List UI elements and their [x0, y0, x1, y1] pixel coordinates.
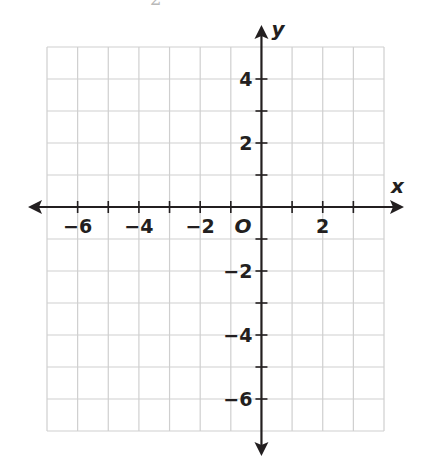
x-axis-label: x [390, 174, 405, 198]
coordinate-plane: −6−4−2242−2−4−6 x y O [0, 0, 425, 465]
x-tick-label: −4 [124, 215, 153, 237]
axes [28, 25, 404, 456]
y-tick-label: 2 [239, 132, 252, 154]
x-tick-label: 2 [316, 215, 329, 237]
y-tick-label: −6 [223, 388, 252, 410]
grid-lines [47, 47, 384, 431]
y-tick-label: −2 [223, 260, 252, 282]
y-tick-label: −4 [223, 324, 252, 346]
x-tick-label: −2 [186, 215, 215, 237]
x-tick-label: −6 [63, 215, 92, 237]
y-axis-label: y [271, 17, 285, 41]
origin-label: O [234, 214, 251, 238]
y-tick-label: 4 [239, 68, 252, 90]
